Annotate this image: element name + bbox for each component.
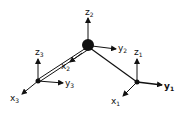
x3-axis-arrow [22,81,38,94]
z3-label: z3 [35,47,44,58]
y1-label: y1 [164,81,174,92]
z1-label: z1 [134,47,143,58]
y2-label: y2 [118,43,127,54]
node-3-joint [36,79,41,84]
x1-label: x1 [111,96,120,107]
z2-label: z2 [85,7,94,18]
y2-axis-arrow [92,46,116,49]
x1-axis-arrow [123,82,137,96]
y3-axis-arrow [38,81,63,83]
coordinate-frames-diagram: z2 y2 x2 z3 y3 x3 z1 y1 x1 [0,0,182,117]
node-2-joint [82,39,94,51]
x3-label: x3 [10,93,19,104]
y1-axis-arrow [137,82,162,85]
node-1-joint [135,80,140,85]
y3-label: y3 [65,78,74,89]
link-2-to-1 [90,48,137,82]
